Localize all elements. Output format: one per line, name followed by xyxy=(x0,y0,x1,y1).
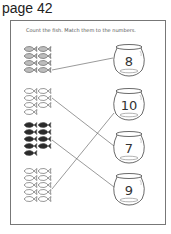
fish-group-7-white xyxy=(24,88,51,114)
fishbowl-8: 8 xyxy=(114,45,145,77)
fishbowl-7: 7 xyxy=(114,132,145,164)
worksheet-illustration: 8 10 7 9 xyxy=(0,0,171,234)
line-7-to-bowl-7 xyxy=(52,98,114,146)
fish-group-9-black xyxy=(24,122,51,155)
fishbowl-10: 10 xyxy=(114,89,145,121)
line-10-to-bowl-10 xyxy=(52,113,114,189)
bowl-number: 7 xyxy=(125,141,133,156)
bowl-number: 9 xyxy=(125,183,133,198)
bowl-number: 8 xyxy=(125,54,133,69)
fish-group-10-white xyxy=(24,168,51,201)
bowl-number: 10 xyxy=(121,98,138,113)
fishbowl-9: 9 xyxy=(114,174,145,206)
matching-lines xyxy=(52,58,114,189)
line-9-to-bowl-9 xyxy=(52,140,114,187)
fish-group-8-grey xyxy=(24,46,51,72)
line-8-to-bowl-8 xyxy=(52,58,113,70)
